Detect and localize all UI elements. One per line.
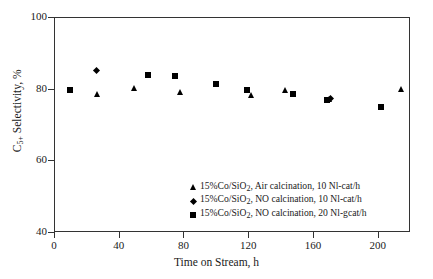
- square-marker: [290, 91, 296, 97]
- x-tick-label: 120: [233, 240, 263, 251]
- legend-item: 15%Co/SiO2, NO calcination, 20 Nl-gcat/h: [188, 207, 367, 221]
- square-marker: [378, 104, 384, 110]
- x-tick-label: 40: [104, 240, 134, 251]
- square-marker: [190, 212, 196, 218]
- square-marker: [67, 87, 73, 93]
- legend-triangle-icon: [188, 181, 200, 193]
- x-axis-label: Time on Stream, h: [0, 256, 433, 268]
- x-tick-mark: [119, 232, 120, 238]
- diamond-marker: [189, 198, 196, 205]
- triangle-marker: [177, 89, 183, 95]
- triangle-marker: [248, 92, 254, 98]
- chart-figure: 406080100 04080120160200 Time on Stream,…: [0, 0, 433, 279]
- legend: 15%Co/SiO2, Air calcination, 10 Nl-cat/h…: [188, 180, 367, 221]
- x-tick-label: 80: [168, 240, 198, 251]
- triangle-marker: [398, 86, 404, 92]
- x-tick-mark: [378, 232, 379, 238]
- y-tick-mark: [48, 160, 54, 161]
- square-marker: [172, 73, 178, 79]
- legend-square-icon: [188, 208, 200, 220]
- y-tick-label: 40: [13, 226, 47, 237]
- x-tick-mark: [248, 232, 249, 238]
- y-tick-mark: [48, 89, 54, 90]
- square-marker: [145, 72, 151, 78]
- triangle-marker: [190, 184, 196, 190]
- y-tick-mark: [48, 17, 54, 18]
- legend-diamond-icon: [188, 194, 200, 206]
- x-tick-label: 200: [363, 240, 393, 251]
- x-tick-mark: [313, 232, 314, 238]
- y-tick-label: 100: [13, 11, 47, 22]
- x-tick-label: 160: [298, 240, 328, 251]
- square-marker: [213, 81, 219, 87]
- legend-item-label: 15%Co/SiO2, NO calcination, 20 Nl-gcat/h: [200, 206, 367, 222]
- y-axis-label: C5+ Selectivity, %: [11, 51, 25, 171]
- square-marker: [324, 97, 330, 103]
- triangle-marker: [282, 87, 288, 93]
- x-tick-label: 0: [39, 240, 69, 251]
- square-marker: [244, 87, 250, 93]
- x-tick-mark: [54, 232, 55, 238]
- triangle-marker: [131, 85, 137, 91]
- x-tick-mark: [183, 232, 184, 238]
- triangle-marker: [94, 91, 100, 97]
